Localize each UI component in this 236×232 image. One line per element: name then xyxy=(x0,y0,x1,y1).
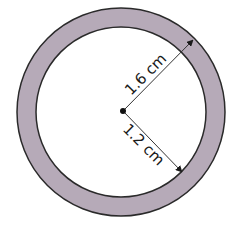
annulus-diagram: 1.6 cm 1.2 cm xyxy=(0,0,236,232)
center-point xyxy=(120,108,126,114)
